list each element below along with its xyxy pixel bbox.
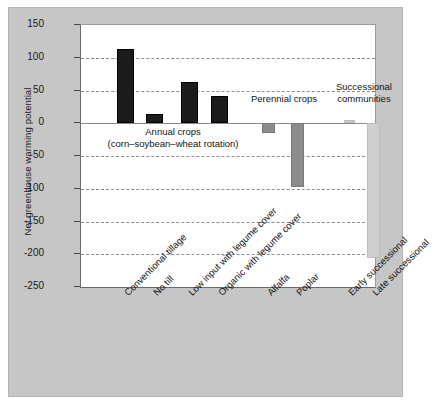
y-axis-tick-label: 100 [10,51,44,62]
group-label-line1: Successional [274,81,434,93]
bar [117,49,134,124]
y-axis-tick-label: -200 [10,247,44,258]
bar [262,123,275,133]
y-axis-tick-label: -50 [10,149,44,160]
y-axis-tick-label: 150 [10,18,44,29]
bar [344,120,355,123]
zero-line [81,123,375,124]
figure-panel: Net greenhouse warming potential 1501005… [8,7,403,397]
group-label-line2: communities [274,93,434,105]
gridline [81,189,375,190]
y-axis-tick-label: -250 [10,280,44,291]
group-label: Successionalcommunities [274,81,434,104]
y-axis-tick-label: 50 [10,84,44,95]
y-axis-tick-label: -100 [10,182,44,193]
group-label-line1: Annual crops [83,126,263,138]
bar [291,123,304,187]
y-axis-tick-label: 0 [10,116,44,127]
bar [146,114,163,123]
gridline [81,156,375,157]
gridline [81,222,375,223]
group-label-line2: (corn–soybean–wheat rotation) [83,138,263,150]
bar [367,123,380,257]
y-axis-tick-label: -150 [10,215,44,226]
group-label: Annual crops(corn–soybean–wheat rotation… [83,126,263,149]
